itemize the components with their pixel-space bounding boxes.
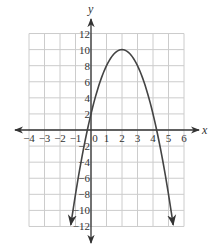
x-axis-label: x [201, 123, 208, 137]
y-tick-label: 12 [79, 28, 90, 40]
y-tick-label: −12 [73, 220, 90, 232]
y-tick-label: −6 [78, 172, 90, 184]
x-tick-label: 5 [166, 132, 172, 144]
x-tick-label: 0 [92, 132, 98, 144]
x-tick-label: 2 [119, 132, 125, 144]
x-tick-label: −3 [39, 132, 51, 144]
x-tick-label: 1 [104, 132, 110, 144]
x-tick-label: 3 [135, 132, 141, 144]
x-tick-label: 6 [181, 132, 187, 144]
y-tick-label: 4 [85, 92, 91, 104]
y-tick-label: 6 [85, 76, 91, 88]
x-tick-label: 4 [150, 132, 156, 144]
parabola-graph: −4−3−2−10123456−12−10−8−6−4−224681012 x … [0, 0, 221, 251]
y-tick-label: −8 [78, 188, 90, 200]
x-tick-label: −4 [23, 132, 35, 144]
y-tick-label: 10 [79, 44, 91, 56]
y-axis-label: y [87, 2, 94, 16]
y-tick-label: 2 [85, 108, 91, 120]
y-tick-label: −10 [73, 204, 91, 216]
y-tick-label: 8 [85, 60, 91, 72]
x-tick-label: −2 [54, 132, 66, 144]
